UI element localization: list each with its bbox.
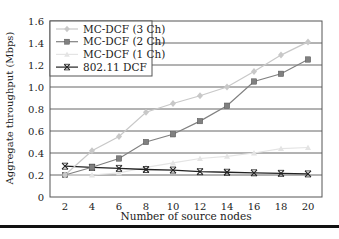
- x-tick-label: 2: [62, 201, 68, 212]
- series-line: [65, 60, 308, 176]
- y-axis-ticks: 00.20.40.60.81.01.21.41.6: [28, 16, 44, 203]
- y-tick-label: 0: [38, 192, 44, 203]
- legend-label: 802.11 DCF: [83, 61, 147, 73]
- bottom-rule: [0, 225, 339, 228]
- square-marker-icon: [251, 79, 256, 84]
- square-marker-icon: [143, 139, 148, 144]
- y-tick-label: 0.2: [28, 170, 44, 181]
- x-tick-label: 20: [302, 201, 315, 212]
- series-mc-dcf-1-ch-: [62, 145, 311, 178]
- legend-label: MC-DCF (2 Ch): [83, 35, 165, 47]
- legend: MC-DCF (3 Ch)MC-DCF (2 Ch)MC-DCF (1 Ch)8…: [50, 21, 165, 76]
- square-marker-icon: [170, 132, 175, 137]
- y-tick-label: 0.8: [28, 104, 44, 115]
- series-line: [65, 166, 308, 174]
- square-marker-icon: [278, 71, 283, 76]
- x-axis-label: Number of source nodes: [120, 210, 251, 222]
- diamond-marker-icon: [305, 38, 311, 45]
- square-marker-icon: [197, 118, 202, 123]
- y-tick-label: 1.0: [28, 82, 44, 93]
- diamond-marker-icon: [278, 52, 284, 59]
- diamond-marker-icon: [224, 84, 230, 91]
- square-marker-icon: [89, 165, 94, 170]
- diamond-marker-icon: [251, 68, 257, 75]
- diamond-marker-icon: [170, 100, 176, 107]
- square-marker-icon: [305, 57, 310, 62]
- y-tick-label: 0.4: [28, 148, 44, 159]
- legend-label: MC-DCF (1 Ch): [83, 48, 165, 60]
- y-tick-label: 1.6: [28, 16, 44, 27]
- y-tick-label: 1.4: [28, 38, 44, 49]
- x-tick-label: 4: [89, 201, 95, 212]
- y-tick-label: 0.6: [28, 126, 44, 137]
- square-marker-icon: [65, 39, 70, 44]
- throughput-chart: 00.20.40.60.81.01.21.41.6 24681012141618…: [0, 0, 339, 239]
- square-marker-icon: [224, 103, 229, 108]
- x-tick-label: 18: [275, 201, 288, 212]
- legend-label: MC-DCF (3 Ch): [83, 23, 165, 35]
- y-tick-label: 1.2: [28, 60, 44, 71]
- y-axis-label: Aggregate throughput (Mbps): [4, 32, 15, 186]
- square-marker-icon: [116, 156, 121, 161]
- diamond-marker-icon: [197, 92, 203, 99]
